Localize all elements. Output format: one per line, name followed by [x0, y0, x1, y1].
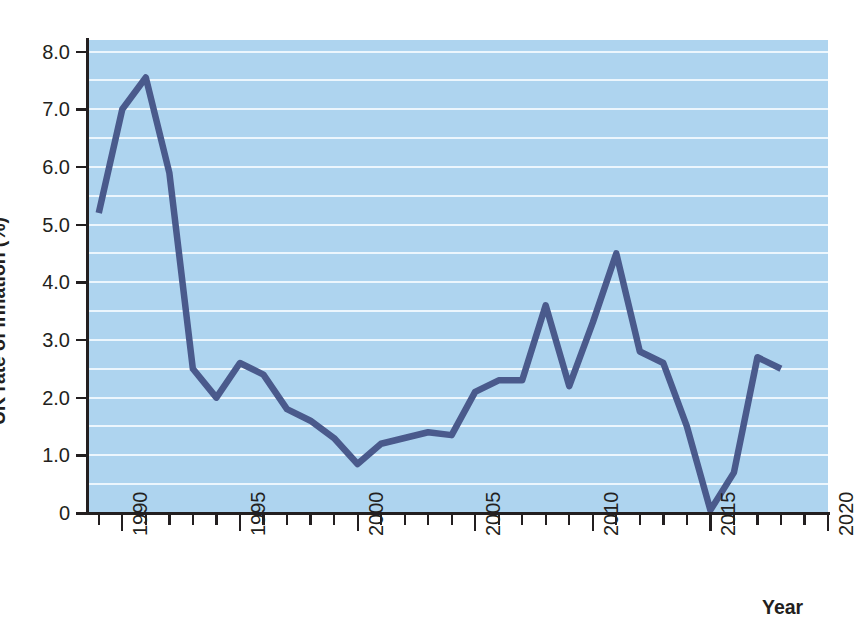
x-axis-tick-minor	[803, 514, 805, 525]
y-axis-tick	[76, 454, 87, 457]
y-axis-tick	[76, 281, 87, 284]
x-axis-tick-label: 2000	[366, 492, 386, 537]
y-axis-tick	[76, 108, 87, 111]
y-axis-tick-label: 6.0	[42, 157, 70, 177]
x-axis-tick-minor	[686, 514, 688, 525]
x-axis-tick-minor	[427, 514, 429, 525]
y-axis-tick	[76, 512, 87, 515]
x-axis-tick-minor	[404, 514, 406, 525]
x-axis-tick-major	[592, 514, 594, 531]
series-svg	[87, 40, 828, 513]
x-axis-tick-major	[709, 514, 711, 531]
x-axis-tick-label: 1995	[248, 492, 268, 537]
x-axis-tick-minor	[568, 514, 570, 525]
y-axis-tick-label: 7.0	[42, 99, 70, 119]
x-axis-tick-major	[357, 514, 359, 531]
series-line-layer	[87, 40, 828, 513]
x-axis-tick-minor	[451, 514, 453, 525]
y-axis-tick-label: 2.0	[42, 388, 70, 408]
x-axis-tick-minor	[780, 514, 782, 525]
x-axis-tick-label: 2005	[483, 492, 503, 537]
y-axis-tick	[76, 224, 87, 227]
x-axis-tick-minor	[286, 514, 288, 525]
x-axis-tick-minor	[309, 514, 311, 525]
x-axis-tick-minor	[662, 514, 664, 525]
x-axis-tick-minor	[756, 514, 758, 525]
y-axis-tick-label: 3.0	[42, 330, 70, 350]
x-axis-tick-minor	[639, 514, 641, 525]
x-axis-tick-minor	[192, 514, 194, 525]
x-axis-tick-major	[121, 514, 123, 531]
x-axis-tick-major	[827, 514, 829, 531]
y-axis-tick-label: 1.0	[42, 445, 70, 465]
y-axis-tick	[76, 339, 87, 342]
y-axis-tick-label: 5.0	[42, 215, 70, 235]
x-axis-tick-label: 2010	[601, 492, 621, 537]
x-axis-tick-minor	[521, 514, 523, 525]
x-axis-tick-minor	[545, 514, 547, 525]
y-axis-tick-label: 4.0	[42, 272, 70, 292]
y-axis-tick	[76, 51, 87, 54]
x-axis-title: Year	[762, 596, 803, 619]
plot-area	[87, 40, 828, 513]
x-axis-tick-label: 2020	[836, 492, 856, 537]
inflation-series-line	[99, 77, 781, 510]
y-axis-tick	[76, 166, 87, 169]
x-axis-tick-major	[239, 514, 241, 531]
x-axis-tick-minor	[333, 514, 335, 525]
x-axis-tick-minor	[168, 514, 170, 525]
x-axis-tick-minor	[98, 514, 100, 525]
x-axis-tick-label: 1990	[130, 492, 150, 537]
y-axis-tick-label: 0	[59, 503, 70, 523]
x-axis-tick-minor	[215, 514, 217, 525]
x-axis-tick-label: 2015	[718, 492, 738, 537]
x-axis-tick-major	[474, 514, 476, 531]
y-axis-tick-label: 8.0	[42, 42, 70, 62]
y-axis-tick	[76, 397, 87, 400]
y-axis-tick-labels: 8.07.06.05.04.03.02.01.00	[0, 0, 70, 642]
